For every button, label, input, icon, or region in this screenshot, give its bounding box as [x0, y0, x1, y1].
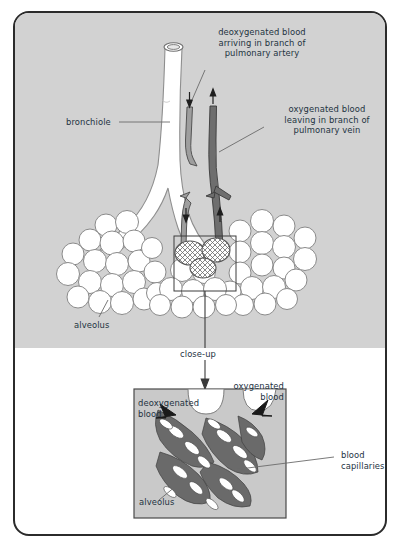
artery-leader	[192, 70, 205, 100]
close-up-label: close-up	[176, 349, 220, 360]
vein-leader	[219, 127, 264, 152]
alveolus-label: alveolus	[74, 320, 110, 331]
inset-oxygenated-label: oxygenated blood	[216, 381, 284, 403]
deoxygenated-blood-label: deoxygenated blood arriving in branch of…	[198, 27, 326, 59]
bronchiole-label: bronchiole	[66, 117, 111, 128]
inset-alveolus-label: alveolus	[139, 497, 175, 508]
pulmonary-vein-vessel	[206, 106, 231, 248]
blood-capillaries-label: blood capillaries	[341, 450, 385, 472]
oxygenated-blood-label: oxygenated blood leaving in branch of pu…	[266, 104, 388, 136]
inset-deoxygenated-label: deoxygenated blood	[138, 398, 199, 420]
